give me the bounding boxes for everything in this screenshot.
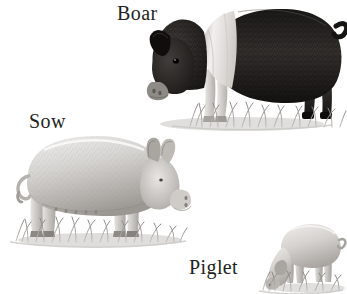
label-sow: Sow [29, 111, 66, 131]
label-piglet: Piglet [189, 257, 238, 277]
label-boar: Boar [117, 3, 157, 23]
piglet-illustration [253, 220, 347, 294]
sow-illustration [8, 128, 194, 253]
illustration-plate: Boar Sow Piglet [0, 0, 347, 294]
boar-illustration [146, 4, 347, 136]
